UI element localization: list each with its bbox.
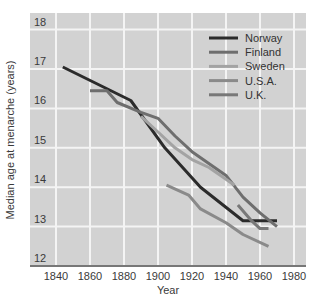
y-tick-label: 14 [34, 173, 46, 185]
y-tick-label: 12 [34, 252, 46, 264]
legend-label: Sweden [245, 60, 285, 72]
y-tick-label: 13 [34, 213, 46, 225]
y-tick-label: 17 [34, 55, 46, 67]
x-tick-label: 1980 [282, 270, 306, 282]
x-axis-label: Year [157, 284, 180, 296]
chart: 12131415161718 1840186018801900192019401… [0, 0, 315, 305]
y-tick-label: 18 [34, 16, 46, 28]
y-axis-label: Median age at menarche (years) [4, 61, 16, 220]
legend-label: U.S.A. [245, 75, 277, 87]
legend-label: Finland [245, 46, 281, 58]
x-axis-ticks: 18401860188019001920194019601980 [44, 270, 306, 282]
x-tick-label: 1920 [180, 270, 204, 282]
x-tick-label: 1860 [78, 270, 102, 282]
x-tick-label: 1940 [214, 270, 238, 282]
legend-label: U.K. [245, 89, 266, 101]
y-tick-label: 16 [34, 94, 46, 106]
x-tick-label: 1900 [146, 270, 170, 282]
legend-label: Norway [245, 32, 283, 44]
x-tick-label: 1880 [112, 270, 136, 282]
x-tick-label: 1840 [44, 270, 68, 282]
y-tick-label: 15 [34, 134, 46, 146]
x-tick-label: 1960 [248, 270, 272, 282]
